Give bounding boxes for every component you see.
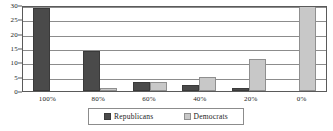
bars-layer — [23, 7, 326, 91]
plot-area — [22, 6, 327, 92]
x-axis-tick-label: 40% — [174, 93, 225, 105]
bar-group-80pct — [75, 7, 125, 91]
bar-rep-80pct[interactable] — [83, 51, 100, 91]
x-axis: 100%80%60%40%20%0% — [22, 93, 327, 105]
y-axis-tick-label: 20 — [11, 31, 18, 38]
republicans-swatch — [104, 113, 111, 120]
bar-group-60pct — [125, 7, 175, 91]
bar-group-40pct — [174, 7, 224, 91]
bar-group-20pct — [224, 7, 274, 91]
bar-rep-100pct[interactable] — [33, 8, 50, 91]
legend-label: Republicans — [114, 113, 153, 121]
bar-dem-0pct[interactable] — [299, 6, 316, 91]
y-axis-tick-label: 30 — [11, 3, 18, 10]
y-axis-tick-label: 25 — [11, 17, 18, 24]
bar-dem-60pct[interactable] — [150, 82, 167, 91]
bar-group-0pct — [274, 7, 324, 91]
y-axis-tick-label: 10 — [11, 60, 18, 67]
y-axis: 051015202530 — [0, 6, 22, 92]
bar-rep-40pct[interactable] — [182, 85, 199, 91]
bar-rep-60pct[interactable] — [133, 82, 150, 91]
x-axis-tick-label: 60% — [124, 93, 175, 105]
x-axis-tick-label: 0% — [276, 93, 327, 105]
chart-legend: RepublicansDemocrats — [88, 108, 244, 125]
bar-dem-20pct[interactable] — [249, 59, 266, 91]
x-axis-tick-label: 100% — [22, 93, 73, 105]
bar-group-100pct — [25, 7, 75, 91]
bar-rep-20pct[interactable] — [232, 88, 249, 91]
bar-dem-40pct[interactable] — [199, 77, 216, 91]
legend-item-republicans[interactable]: Republicans — [104, 113, 153, 121]
x-axis-tick-label: 20% — [225, 93, 276, 105]
democrats-swatch — [184, 113, 191, 120]
legend-item-democrats[interactable]: Democrats — [184, 113, 228, 121]
x-axis-tick-label: 80% — [73, 93, 124, 105]
bar-dem-80pct[interactable] — [100, 88, 117, 91]
y-axis-tick-label: 15 — [11, 46, 18, 53]
legend-label: Democrats — [194, 113, 228, 121]
bar-chart: 051015202530 100%80%60%40%20%0% Republic… — [0, 0, 333, 131]
